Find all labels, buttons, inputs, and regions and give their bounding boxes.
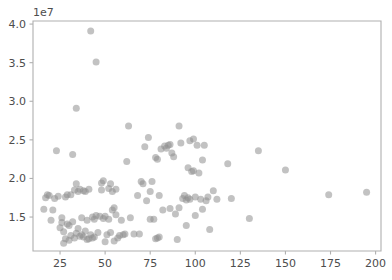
data-point (105, 216, 112, 223)
data-point (174, 236, 181, 243)
data-point (93, 58, 100, 65)
data-point (136, 231, 143, 238)
x-tick-label: 100 (185, 257, 206, 270)
data-point (134, 192, 141, 199)
data-point (206, 226, 213, 233)
data-point (190, 136, 197, 143)
data-point (147, 188, 154, 195)
data-point (107, 180, 114, 187)
x-tick-label: 200 (365, 257, 386, 270)
data-point (73, 105, 80, 112)
data-point (170, 153, 177, 160)
y-tick-label: 4.0 (9, 18, 27, 31)
data-point (85, 186, 92, 193)
data-point (55, 193, 62, 200)
axes-background (33, 21, 381, 251)
data-point (156, 192, 163, 199)
data-point (143, 197, 150, 204)
data-point (363, 189, 370, 196)
x-tick-label: 125 (230, 257, 251, 270)
data-point (154, 156, 161, 163)
data-point (224, 160, 231, 167)
data-point (123, 158, 130, 165)
data-point (177, 139, 184, 146)
data-point (112, 211, 119, 218)
data-point (325, 191, 332, 198)
data-point (199, 156, 206, 163)
data-point (100, 177, 107, 184)
x-tick-label: 75 (143, 257, 157, 270)
y-tick-label: 3.0 (9, 95, 27, 108)
data-point (69, 151, 76, 158)
data-point (176, 204, 183, 211)
data-point (192, 212, 199, 219)
data-point (201, 142, 208, 149)
data-point (141, 143, 148, 150)
scatter-plot-canvas: 255075100125150175200 1.52.02.53.03.54.0… (0, 0, 392, 280)
data-point (87, 28, 94, 35)
data-point (204, 193, 211, 200)
data-point (75, 225, 82, 232)
data-point (107, 229, 114, 236)
data-point (195, 170, 202, 177)
data-point (159, 207, 166, 214)
data-point (176, 122, 183, 129)
data-point (111, 204, 118, 211)
data-point (255, 147, 262, 154)
data-point (228, 195, 235, 202)
data-point (125, 122, 132, 129)
y-axis-offset-label: 1e7 (33, 6, 54, 19)
x-tick-label: 50 (98, 257, 112, 270)
data-point (94, 229, 101, 236)
data-point (112, 186, 119, 193)
data-point (69, 218, 76, 225)
data-point (121, 231, 128, 238)
data-point (213, 196, 220, 203)
data-point (145, 134, 152, 141)
data-point (102, 238, 109, 245)
data-point (98, 187, 105, 194)
x-tick-label: 25 (53, 257, 67, 270)
y-tick-label: 2.0 (9, 172, 27, 185)
data-point (172, 210, 179, 217)
data-point (53, 147, 60, 154)
data-point (150, 216, 157, 223)
data-point (246, 215, 253, 222)
data-point (282, 166, 289, 173)
data-point (199, 206, 206, 213)
data-point (210, 187, 217, 194)
data-point (194, 142, 201, 149)
data-point (40, 206, 47, 213)
data-point (167, 205, 174, 212)
matplotlib-figure: 255075100125150175200 1.52.02.53.03.54.0… (0, 0, 392, 280)
data-point (48, 217, 55, 224)
y-tick-label: 2.5 (9, 134, 27, 147)
y-tick-label: 3.5 (9, 57, 27, 70)
data-point (60, 228, 67, 235)
data-point (167, 141, 174, 148)
data-point (183, 222, 190, 229)
data-point (156, 234, 163, 241)
data-point (127, 214, 134, 221)
x-tick-label: 175 (320, 257, 341, 270)
y-tick-label: 1.5 (9, 211, 27, 224)
data-point (149, 178, 156, 185)
x-tick-label: 150 (275, 257, 296, 270)
data-point (49, 207, 56, 214)
data-point (118, 217, 125, 224)
data-point (139, 180, 146, 187)
